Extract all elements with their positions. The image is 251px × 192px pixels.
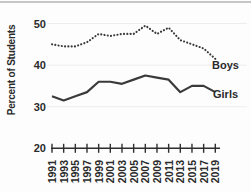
series-line-girls [52, 76, 215, 101]
y-tick-label: 40 [34, 59, 46, 71]
y-tick-label: 30 [34, 101, 46, 113]
x-tick-label: 1999 [93, 160, 105, 184]
chart-container: Percent of Students 50403020199119931995… [0, 0, 251, 192]
x-tick-label: 2001 [104, 160, 116, 184]
series-line-boys [52, 26, 215, 59]
y-tick-label: 50 [34, 18, 46, 30]
x-tick-label: 2003 [116, 160, 128, 184]
x-tick-label: 2005 [128, 160, 140, 184]
series-label-girls: Girls [213, 88, 238, 100]
x-tick-label: 2015 [186, 160, 198, 184]
x-tick-label: 2009 [151, 160, 163, 184]
x-tick-label: 2019 [209, 160, 221, 184]
x-tick-label: 1993 [58, 160, 70, 184]
x-tick-label: 2013 [174, 160, 186, 184]
x-tick-label: 1991 [46, 160, 58, 184]
x-tick-label: 1995 [69, 160, 81, 184]
y-tick-label: 20 [34, 142, 46, 154]
x-tick-label: 2007 [139, 160, 151, 184]
series-label-boys: Boys [212, 59, 239, 71]
x-tick-label: 2017 [198, 160, 210, 184]
x-tick-label: 1997 [81, 160, 93, 184]
x-tick-label: 2011 [163, 160, 175, 183]
